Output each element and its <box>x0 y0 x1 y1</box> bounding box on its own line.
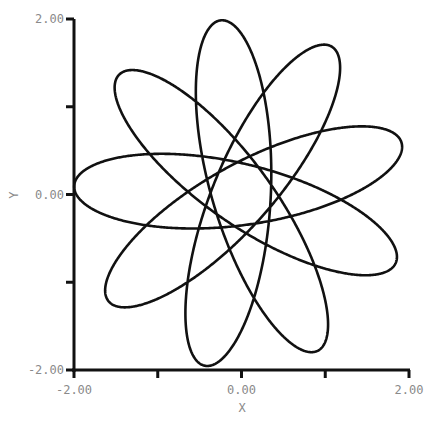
y-tick-label: -2.00 <box>28 363 64 377</box>
x-axis-title: X <box>238 401 246 415</box>
ticks <box>66 19 409 378</box>
series-line-precessing-orbit <box>74 20 402 366</box>
y-tick-label: 0.00 <box>35 188 64 202</box>
x-tick-label: 2.00 <box>395 383 424 397</box>
y-axis-title: Y <box>7 191 21 199</box>
curve-layer <box>74 20 402 366</box>
rosette-plot: -2.000.002.002.000.00-2.00 X Y <box>0 0 433 424</box>
y-tick-label: 2.00 <box>35 12 64 26</box>
x-tick-label: -2.00 <box>56 383 92 397</box>
x-tick-label: 0.00 <box>227 383 256 397</box>
